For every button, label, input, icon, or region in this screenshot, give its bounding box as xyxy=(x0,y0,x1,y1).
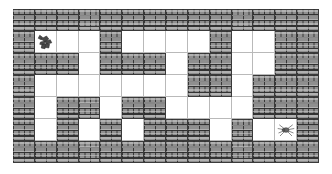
maze-open-cell[interactable] xyxy=(275,119,297,141)
maze-open-cell[interactable] xyxy=(57,75,79,97)
maze-open-cell[interactable] xyxy=(232,97,254,119)
maze-open-cell[interactable] xyxy=(253,119,275,141)
brick-pattern-layer xyxy=(232,119,253,140)
maze-app xyxy=(0,0,332,174)
brick-pattern-layer xyxy=(253,9,274,30)
maze-wall-cell xyxy=(232,141,254,163)
maze-wall-cell xyxy=(297,141,319,163)
maze-open-cell[interactable] xyxy=(188,31,210,53)
maze-wall-cell xyxy=(122,53,144,75)
brick-pattern-layer xyxy=(13,31,34,52)
maze-wall-cell xyxy=(232,9,254,31)
maze-open-cell[interactable] xyxy=(122,119,144,141)
brick-pattern-layer xyxy=(210,53,231,74)
brick-pattern-layer xyxy=(297,141,318,162)
maze-wall-cell xyxy=(100,9,122,31)
maze-wall-cell xyxy=(35,9,57,31)
brick-pattern-layer xyxy=(144,119,165,140)
maze-wall-cell xyxy=(122,9,144,31)
maze-grid[interactable] xyxy=(13,9,319,163)
brick-pattern-layer xyxy=(253,97,274,118)
maze-wall-cell xyxy=(100,53,122,75)
maze-open-cell[interactable] xyxy=(122,75,144,97)
maze-wall-cell xyxy=(13,31,35,53)
maze-open-cell[interactable] xyxy=(166,31,188,53)
maze-wall-cell xyxy=(144,141,166,163)
brick-pattern-layer xyxy=(35,141,56,162)
maze-open-cell[interactable] xyxy=(79,119,101,141)
maze-open-cell[interactable] xyxy=(79,31,101,53)
maze-wall-cell xyxy=(275,97,297,119)
maze-wall-cell xyxy=(57,97,79,119)
maze-open-cell[interactable] xyxy=(35,31,57,53)
maze-wall-cell xyxy=(188,141,210,163)
brick-pattern-layer xyxy=(210,75,231,96)
maze-open-cell[interactable] xyxy=(144,75,166,97)
brick-pattern-layer xyxy=(275,97,296,118)
maze-open-cell[interactable] xyxy=(79,53,101,75)
brick-pattern-layer xyxy=(210,31,231,52)
maze-wall-cell xyxy=(275,75,297,97)
brick-pattern-layer xyxy=(297,119,318,140)
brick-pattern-layer xyxy=(122,9,143,30)
maze-wall-cell xyxy=(122,97,144,119)
brick-pattern-layer xyxy=(57,53,78,74)
brick-pattern-layer xyxy=(144,53,165,74)
maze-open-cell[interactable] xyxy=(79,75,101,97)
maze-wall-cell xyxy=(253,97,275,119)
maze-board[interactable] xyxy=(13,9,319,163)
brick-pattern-layer xyxy=(57,141,78,162)
maze-open-cell[interactable] xyxy=(57,31,79,53)
maze-wall-cell xyxy=(57,141,79,163)
maze-open-cell[interactable] xyxy=(144,31,166,53)
brick-pattern-layer xyxy=(79,9,100,30)
maze-open-cell[interactable] xyxy=(253,53,275,75)
maze-open-cell[interactable] xyxy=(166,75,188,97)
maze-wall-cell xyxy=(13,119,35,141)
brick-pattern-layer xyxy=(57,119,78,140)
maze-wall-cell xyxy=(144,9,166,31)
maze-wall-cell xyxy=(210,75,232,97)
brick-pattern-layer xyxy=(122,97,143,118)
maze-open-cell[interactable] xyxy=(232,31,254,53)
brick-pattern-layer xyxy=(210,141,231,162)
brick-pattern-layer xyxy=(122,141,143,162)
brick-pattern-layer xyxy=(275,9,296,30)
brick-pattern-layer xyxy=(79,141,100,162)
maze-wall-cell xyxy=(275,141,297,163)
maze-open-cell[interactable] xyxy=(122,31,144,53)
maze-open-cell[interactable] xyxy=(166,53,188,75)
brick-pattern-layer xyxy=(122,53,143,74)
brick-pattern-layer xyxy=(100,141,121,162)
brick-pattern-layer xyxy=(253,75,274,96)
maze-open-cell[interactable] xyxy=(232,53,254,75)
maze-wall-cell xyxy=(210,141,232,163)
maze-open-cell[interactable] xyxy=(35,97,57,119)
maze-open-cell[interactable] xyxy=(35,119,57,141)
brick-pattern-layer xyxy=(35,53,56,74)
brick-pattern-layer xyxy=(13,9,34,30)
maze-wall-cell xyxy=(122,141,144,163)
maze-open-cell[interactable] xyxy=(253,31,275,53)
maze-open-cell[interactable] xyxy=(210,97,232,119)
brick-pattern-layer xyxy=(100,31,121,52)
brick-pattern-layer xyxy=(275,75,296,96)
maze-wall-cell xyxy=(144,53,166,75)
maze-wall-cell xyxy=(35,53,57,75)
maze-open-cell[interactable] xyxy=(100,97,122,119)
brick-pattern-layer xyxy=(166,141,187,162)
maze-wall-cell xyxy=(210,31,232,53)
maze-open-cell[interactable] xyxy=(210,119,232,141)
maze-open-cell[interactable] xyxy=(188,97,210,119)
maze-open-cell[interactable] xyxy=(100,75,122,97)
maze-wall-cell xyxy=(188,75,210,97)
maze-open-cell[interactable] xyxy=(166,97,188,119)
maze-open-cell[interactable] xyxy=(35,75,57,97)
brick-pattern-layer xyxy=(166,9,187,30)
brick-pattern-layer xyxy=(210,9,231,30)
brick-pattern-layer xyxy=(144,141,165,162)
brick-pattern-layer xyxy=(232,9,253,30)
brick-pattern-layer xyxy=(13,141,34,162)
maze-open-cell[interactable] xyxy=(232,75,254,97)
brick-pattern-layer xyxy=(166,119,187,140)
